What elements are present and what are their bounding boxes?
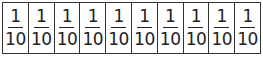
fraction-bar bbox=[8, 27, 23, 29]
numerator: 1 bbox=[242, 8, 252, 25]
denominator: 10 bbox=[57, 31, 78, 48]
numerator: 1 bbox=[113, 8, 123, 25]
denominator: 10 bbox=[108, 31, 129, 48]
fraction-bar bbox=[240, 27, 255, 29]
fraction-cell: 1 10 bbox=[54, 3, 80, 53]
numerator: 1 bbox=[88, 8, 98, 25]
fraction-cell: 1 10 bbox=[183, 3, 209, 53]
denominator: 10 bbox=[237, 31, 258, 48]
numerator: 1 bbox=[139, 8, 149, 25]
numerator: 1 bbox=[62, 8, 72, 25]
denominator: 10 bbox=[186, 31, 207, 48]
fraction-cell: 1 10 bbox=[131, 3, 157, 53]
fraction-bar bbox=[163, 27, 178, 29]
denominator: 10 bbox=[5, 31, 26, 48]
fraction-bar bbox=[188, 27, 203, 29]
fraction-cell: 1 10 bbox=[105, 3, 131, 53]
numerator: 1 bbox=[217, 8, 227, 25]
fraction-cell: 1 10 bbox=[3, 3, 28, 53]
fraction-bar bbox=[34, 27, 49, 29]
numerator: 1 bbox=[191, 8, 201, 25]
fraction-cell: 1 10 bbox=[157, 3, 183, 53]
fraction-cell: 1 10 bbox=[208, 3, 234, 53]
fraction-cell: 1 10 bbox=[79, 3, 105, 53]
numerator: 1 bbox=[10, 8, 20, 25]
denominator: 10 bbox=[82, 31, 103, 48]
fraction-bar bbox=[111, 27, 126, 29]
fraction-strip: 1 10 1 10 1 10 1 10 1 10 1 10 1 10 1 10 … bbox=[2, 2, 261, 54]
denominator: 10 bbox=[134, 31, 155, 48]
fraction-bar bbox=[59, 27, 74, 29]
fraction-bar bbox=[214, 27, 229, 29]
denominator: 10 bbox=[160, 31, 181, 48]
fraction-bar bbox=[137, 27, 152, 29]
numerator: 1 bbox=[36, 8, 46, 25]
numerator: 1 bbox=[165, 8, 175, 25]
fraction-bar bbox=[85, 27, 100, 29]
denominator: 10 bbox=[31, 31, 52, 48]
denominator: 10 bbox=[211, 31, 232, 48]
fraction-cell: 1 10 bbox=[28, 3, 54, 53]
fraction-cell: 1 10 bbox=[234, 3, 260, 53]
